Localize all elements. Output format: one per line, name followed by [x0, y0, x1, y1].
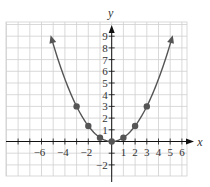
y-tick-label: 2: [102, 112, 108, 124]
x-tick-label: 3: [144, 146, 150, 158]
data-point: [73, 103, 79, 109]
data-point: [109, 138, 115, 144]
y-tick-label: 7: [102, 54, 108, 66]
data-point: [85, 123, 91, 129]
y-tick-label: 1: [102, 124, 108, 136]
y-tick-label: 6: [102, 65, 108, 77]
x-tick-label: −6: [34, 146, 46, 158]
x-tick-label: 5: [167, 146, 173, 158]
y-tick-label: −2: [96, 159, 108, 171]
y-tick-label: 9: [102, 30, 108, 42]
x-tick-label: 6: [179, 146, 185, 158]
y-tick-label: 5: [102, 77, 108, 89]
y-tick-label: 8: [102, 42, 108, 54]
y-tick-label: 4: [102, 89, 108, 101]
data-point: [132, 123, 138, 129]
x-axis-label: x: [196, 135, 203, 149]
y-axis-label: y: [107, 6, 114, 20]
x-tick-label: 1: [121, 146, 127, 158]
data-point: [120, 134, 126, 140]
parabola-graph: −6−4−2123456987654321−2xy: [0, 0, 210, 187]
x-tick-label: −4: [57, 146, 69, 158]
tick-labels: −6−4−2123456987654321−2xy: [34, 6, 204, 171]
y-tick-label: 3: [102, 100, 108, 112]
x-axis-arrow-icon: [186, 139, 194, 145]
y-axis-arrow-icon: [109, 25, 115, 33]
x-tick-label: 4: [156, 146, 162, 158]
x-tick-label: −2: [80, 146, 92, 158]
x-tick-label: 2: [132, 146, 138, 158]
data-point: [144, 103, 150, 109]
